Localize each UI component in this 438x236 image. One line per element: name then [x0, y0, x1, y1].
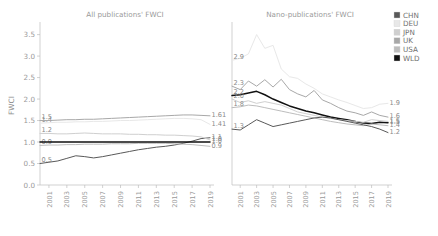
y-tick-label: 2.5 — [24, 73, 35, 82]
y-tick-label: 3.5 — [24, 30, 35, 39]
figure-root: All publications' FWCI0.00.51.01.52.02.5… — [0, 0, 438, 236]
x-tick-label: 2013 — [335, 191, 343, 208]
end-value-label: 1.61 — [212, 111, 227, 119]
y-tick-label: 1.0 — [24, 138, 36, 147]
y-tick-label: 0.0 — [24, 181, 36, 190]
end-value-label: 1.0 — [212, 137, 223, 145]
y-tick-label: 2.0 — [24, 95, 36, 104]
series-line-deu — [232, 35, 388, 109]
end-value-label: 1.2 — [390, 128, 401, 136]
x-tick-label: 2019 — [207, 191, 215, 208]
fwci-dual-line-chart: All publications' FWCI0.00.51.01.52.02.5… — [0, 0, 438, 236]
start-value-label: 1.2 — [42, 126, 53, 134]
start-value-label: 1.5 — [42, 113, 53, 121]
legend-swatch-chn — [394, 12, 400, 18]
start-value-label: 0.5 — [42, 156, 53, 164]
end-value-label: 1.9 — [390, 99, 401, 107]
x-tick-label: 2005 — [270, 191, 278, 208]
x-tick-label: 2007 — [286, 191, 294, 208]
start-value-label: 2.9 — [234, 53, 245, 61]
start-value-label: 1.3 — [234, 122, 245, 130]
legend-swatch-wld — [394, 55, 400, 61]
y-tick-label: 3.0 — [24, 52, 36, 61]
x-tick-label: 2017 — [189, 191, 197, 208]
x-tick-label: 2015 — [352, 191, 360, 208]
series-line-uk — [40, 115, 210, 121]
panel-title: All publications' FWCI — [86, 10, 163, 19]
end-value-label: 1.41 — [212, 120, 227, 128]
x-tick-label: 2013 — [153, 191, 161, 208]
panel-title: Nano-publications' FWCI — [266, 10, 354, 19]
legend-swatch-uk — [394, 38, 400, 44]
x-tick-label: 2003 — [253, 191, 261, 208]
x-tick-label: 2003 — [63, 191, 71, 208]
x-tick-label: 2009 — [117, 191, 125, 208]
series-line-chn — [232, 117, 388, 132]
x-tick-label: 2007 — [99, 191, 107, 208]
legend-swatch-usa — [394, 46, 400, 52]
x-tick-label: 2005 — [81, 191, 89, 208]
y-tick-label: 0.5 — [24, 159, 35, 168]
start-value-label: 1.8 — [234, 100, 245, 108]
x-tick-label: 2011 — [319, 191, 327, 208]
start-value-label: 2.3 — [234, 79, 245, 87]
x-tick-label: 2019 — [385, 191, 393, 208]
x-tick-label: 2017 — [368, 191, 376, 208]
x-tick-label: 2011 — [135, 191, 143, 208]
series-line-usa — [40, 143, 210, 146]
legend-swatch-jpn — [394, 29, 400, 35]
legend-swatch-deu — [394, 21, 400, 27]
y-tick-label: 1.5 — [24, 116, 35, 125]
x-tick-label: 2001 — [46, 191, 54, 208]
x-tick-label: 2009 — [302, 191, 310, 208]
y-axis-label: FWCI — [7, 96, 16, 115]
x-tick-label: 2001 — [237, 191, 245, 208]
legend-label-wld: WLD — [403, 54, 420, 63]
start-value-label: 2.0 — [234, 92, 245, 100]
x-tick-label: 2015 — [171, 191, 179, 208]
series-line-jpn — [40, 133, 210, 140]
